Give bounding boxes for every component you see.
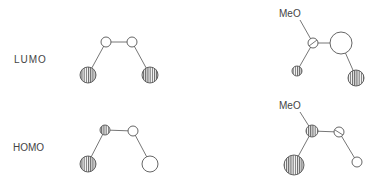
orbital-lobe-shaded bbox=[284, 155, 304, 175]
meo-label: MeO bbox=[279, 100, 301, 111]
orbital-lobe-shaded bbox=[100, 125, 110, 135]
lumo-butadiene bbox=[80, 37, 158, 83]
homo-methoxy-butadiene: MeO bbox=[279, 100, 362, 175]
orbital-lobe-shaded bbox=[80, 67, 96, 83]
orbital-lobe-open bbox=[101, 37, 111, 47]
orbital-lobe-shaded bbox=[306, 125, 318, 137]
orbital-lobe-shaded bbox=[348, 70, 364, 86]
orbital-lobe-open bbox=[127, 37, 137, 47]
meo-label: MeO bbox=[279, 8, 301, 19]
homo-butadiene bbox=[80, 125, 158, 172]
orbital-lobe-open bbox=[142, 156, 158, 172]
lumo-label: LUMO bbox=[14, 54, 47, 65]
orbital-lobe-open bbox=[352, 157, 362, 167]
orbital-lobe-shaded bbox=[292, 66, 302, 76]
orbital-lobe-open bbox=[128, 126, 138, 136]
lumo-methoxy-butadiene: MeO bbox=[279, 8, 364, 86]
homo-label: HOMO bbox=[13, 142, 44, 153]
orbital-lobe-shaded bbox=[80, 156, 96, 172]
orbital-lobe-open bbox=[330, 32, 352, 54]
orbital-lobe-shaded bbox=[142, 67, 158, 83]
orbital-diagram: LUMO HOMO MeO MeO bbox=[0, 0, 377, 184]
